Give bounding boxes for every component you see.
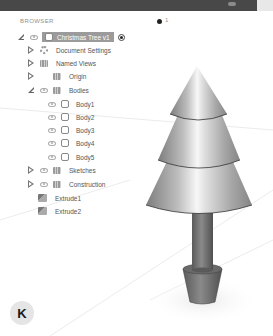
- expand-right-icon[interactable]: [26, 180, 35, 189]
- folder-icon: [52, 166, 61, 175]
- tree-item-body[interactable]: Body4: [47, 137, 94, 149]
- visibility-eye-icon[interactable]: [39, 86, 48, 95]
- activate-radio-icon[interactable]: [118, 34, 125, 41]
- tree-root[interactable]: Christmas Tree v1: [16, 31, 125, 43]
- extrude-icon: [38, 194, 47, 203]
- keyboard-shortcut-badge: K: [10, 301, 34, 325]
- expand-down-icon[interactable]: [26, 86, 35, 95]
- body-icon: [60, 126, 69, 135]
- expand-right-icon[interactable]: [26, 72, 35, 81]
- component-icon: [45, 33, 53, 41]
- browser-panel: BROWSER 1 Christmas Tree v1 Document Set…: [0, 11, 180, 231]
- visibility-eye-icon[interactable]: [29, 33, 38, 42]
- visibility-eye-icon[interactable]: [47, 113, 56, 122]
- gear-icon: [39, 46, 48, 55]
- expand-right-icon[interactable]: [26, 59, 35, 68]
- tree-item-document-settings[interactable]: Document Settings: [26, 44, 111, 56]
- body-icon: [60, 139, 69, 148]
- folder-icon: [52, 72, 61, 81]
- tree-item-bodies[interactable]: Bodies: [26, 84, 89, 96]
- folder-icon: [52, 86, 61, 95]
- extrude-icon: [38, 207, 47, 216]
- browser-pin-icon[interactable]: [157, 19, 162, 24]
- visibility-eye-icon[interactable]: [47, 126, 56, 135]
- tree-item-body[interactable]: Body1: [47, 98, 94, 110]
- tree-item-origin[interactable]: Origin: [26, 70, 86, 82]
- folder-icon: [39, 59, 48, 68]
- visibility-eye-icon[interactable]: [47, 139, 56, 148]
- body-icon: [60, 113, 69, 122]
- tree-item-extrude[interactable]: Extrude2: [38, 205, 81, 217]
- body-icon: [60, 153, 69, 162]
- browser-title: BROWSER: [20, 18, 54, 24]
- tree-item-extrude[interactable]: Extrude1: [38, 192, 81, 204]
- tree-item-construction[interactable]: Construction: [26, 178, 106, 190]
- trunk: [192, 212, 213, 270]
- expand-right-icon[interactable]: [26, 166, 35, 175]
- expand-right-icon[interactable]: [26, 46, 35, 55]
- folder-icon: [52, 180, 61, 189]
- tree-item-body[interactable]: Body2: [47, 111, 94, 123]
- tree-item-sketches[interactable]: Sketches: [26, 164, 96, 176]
- root-component-label[interactable]: Christmas Tree v1: [42, 32, 114, 42]
- tree-item-body[interactable]: Body5: [47, 151, 94, 163]
- tree-item-named-views[interactable]: Named Views: [26, 57, 96, 69]
- visibility-eye-icon[interactable]: [39, 166, 48, 175]
- browser-count: 1: [165, 17, 168, 23]
- visibility-eye-icon[interactable]: [39, 180, 48, 189]
- expand-down-icon[interactable]: [16, 33, 25, 42]
- tree-item-body[interactable]: Body3: [47, 124, 94, 136]
- visibility-eye-icon[interactable]: [47, 153, 56, 162]
- fusion-window: BROWSER 1 Christmas Tree v1 Document Set…: [0, 0, 273, 336]
- visibility-eye-icon[interactable]: [47, 100, 56, 109]
- body-icon: [60, 100, 69, 109]
